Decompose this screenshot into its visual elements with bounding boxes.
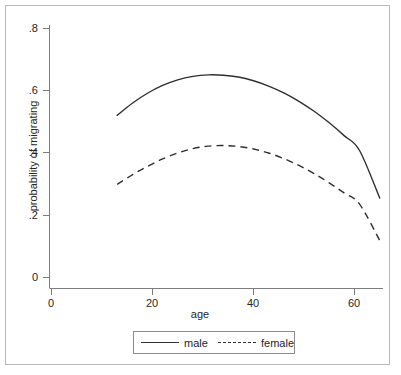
y-axis-title: probability of migrating [27,61,39,251]
chart-legend: male female [133,331,295,354]
legend-item-male: male [141,332,208,353]
x-axis-title: age [140,308,260,320]
chart-figure: .8 .6 .4 .2 0 0 20 40 60 probability of … [0,0,401,375]
xtick-label-60: 60 [339,297,369,309]
ytick-label-0.8: .8 [12,22,38,34]
y-axis-ticks [43,29,49,278]
series-line-male [117,75,380,198]
legend-line-solid-icon [141,342,179,344]
legend-label-male: male [184,337,208,349]
series-line-female [117,146,380,241]
x-axis-ticks [52,289,355,295]
legend-label-female: female [261,337,294,349]
xtick-label-0: 0 [36,297,66,309]
legend-item-female: female [218,332,294,353]
legend-line-dashed-icon [218,342,256,344]
ytick-label-0: 0 [12,271,38,283]
